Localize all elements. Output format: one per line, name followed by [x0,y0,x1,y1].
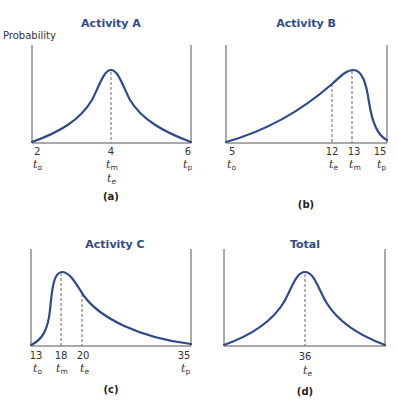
tick-symbol: te [80,362,89,376]
tick-symbol: to [33,158,42,172]
tick-symbol: to [227,158,236,172]
panel-a-caption: (a) [103,191,119,202]
tick-symbol: te [107,172,116,186]
tick-value: 12 [326,146,339,157]
tick-symbol: tm [56,362,68,376]
tick-value: 13 [348,146,361,157]
panel-c-caption: (c) [103,384,118,395]
panel-c-curve [31,272,191,345]
panel-b-curve [226,70,387,142]
tick-value: 13 [30,350,43,361]
tick-value: 5 [229,146,235,157]
tick-value: 35 [178,350,191,361]
tick-symbol: te [303,364,312,378]
tick-symbol: te [329,158,338,172]
panel-d-caption: (d) [297,386,313,397]
panel-activity-b: Activity B 5 to 12 te 13 tm 15 tp (b) [226,17,387,210]
panel-a-curve [32,70,191,142]
tick-symbol: tm [106,158,118,172]
pert-distribution-figure: Activity A Probability 2 to 4 tm te 6 tp… [0,0,398,414]
panel-activity-a: Activity A Probability 2 to 4 tm te 6 tp… [3,17,192,202]
tick-symbol: tm [349,158,361,172]
tick-value: 15 [374,146,387,157]
tick-value: 6 [185,146,191,157]
panel-b-title: Activity B [276,17,336,30]
tick-value: 20 [77,350,90,361]
tick-value: 18 [55,350,68,361]
panel-b-caption: (b) [298,199,314,210]
tick-value: 4 [108,146,114,157]
panel-d-title: Total [290,238,320,251]
panel-c-title: Activity C [85,238,144,251]
tick-symbol: tp [181,362,190,376]
tick-symbol: tp [377,158,386,172]
tick-value: 2 [34,146,40,157]
y-axis-label: Probability [3,30,56,41]
panel-total: Total 36 te (d) [224,238,385,397]
panel-activity-c: Activity C 13 to 18 tm 20 te 35 tp (c) [30,238,191,395]
tick-value: 36 [299,351,312,362]
tick-symbol: tp [183,158,192,172]
tick-symbol: to [33,362,42,376]
panel-a-title: Activity A [81,17,141,30]
